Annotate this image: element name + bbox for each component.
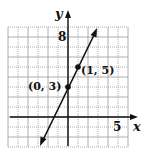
point-0-3 — [65, 84, 71, 90]
line-arrow-top-icon — [91, 28, 98, 38]
coordinate-graph: y x 8 5 (0, 3) (1, 5) — [0, 0, 148, 160]
x-tick-label-5: 5 — [113, 120, 121, 134]
y-axis-arrow-icon — [65, 10, 71, 18]
line-arrow-bottom-icon — [40, 137, 47, 147]
y-tick-label-8: 8 — [58, 30, 66, 44]
x-axis-label: x — [132, 119, 141, 134]
point-label-0-3: (0, 3) — [28, 80, 61, 93]
point-1-5 — [75, 64, 81, 70]
point-label-1-5: (1, 5) — [81, 64, 114, 77]
y-axis-label: y — [54, 6, 64, 21]
